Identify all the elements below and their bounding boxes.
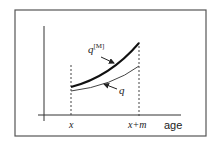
label-q-m: q[M] — [88, 42, 104, 55]
curve-q-m — [71, 43, 139, 87]
curve-q — [71, 66, 139, 91]
arrow-q — [104, 84, 117, 89]
diagram: q[M] q x x+m age — [0, 0, 218, 143]
label-q: q — [119, 84, 125, 96]
tick-label-x-plus-m: x+m — [127, 119, 146, 130]
x-axis-label: age — [164, 119, 182, 131]
arrow-q-m — [101, 57, 114, 63]
tick-label-x: x — [68, 119, 74, 130]
